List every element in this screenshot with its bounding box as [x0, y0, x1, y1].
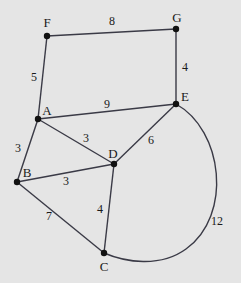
edge-weight-F-G: 8	[109, 15, 115, 27]
edge-D-C	[104, 164, 114, 253]
vertex-dot-G	[173, 26, 179, 32]
vertex-dot-A	[35, 116, 41, 122]
vertex-label-G: G	[172, 11, 181, 24]
vertex-label-F: F	[43, 16, 50, 29]
edge-weight-D-C: 4	[97, 203, 103, 215]
vertex-label-E: E	[181, 90, 189, 103]
vertex-label-A: A	[42, 104, 51, 117]
edge-weight-A-D: 3	[83, 132, 89, 144]
edge-weight-B-D: 3	[63, 175, 69, 187]
vertex-dot-C	[101, 250, 107, 256]
edge-A-D	[38, 119, 114, 164]
edge-E-C-curve	[104, 104, 217, 262]
edge-weight-F-A: 5	[31, 71, 37, 83]
vertex-label-B: B	[23, 166, 32, 179]
edge-weight-A-E: 9	[104, 98, 110, 110]
vertex-label-D: D	[108, 147, 117, 160]
vertex-label-C: C	[100, 260, 109, 273]
graph-canvas	[0, 0, 241, 283]
edge-weight-A-B: 3	[15, 142, 21, 154]
graph-diagram: A B C D E F G 8 5 4 9 3 3 3 7 4 6 12	[0, 0, 241, 283]
vertex-dot-D	[111, 161, 117, 167]
vertex-dots	[14, 26, 179, 256]
edge-weight-E-C: 12	[211, 215, 223, 227]
edge-weight-B-C: 7	[46, 210, 52, 222]
vertex-dot-E	[173, 101, 179, 107]
vertex-dot-B	[14, 179, 20, 185]
edge-D-E	[114, 104, 176, 164]
edge-weight-D-E: 6	[148, 134, 154, 146]
edge-F-G	[47, 29, 176, 36]
edge-weight-G-E: 4	[182, 61, 188, 73]
edge-B-C	[17, 182, 104, 253]
vertex-dot-F	[44, 33, 50, 39]
